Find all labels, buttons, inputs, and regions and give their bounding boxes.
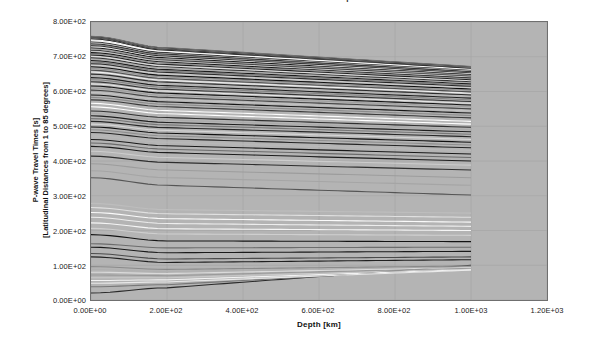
x-tick-label: 8.00E+02 (359, 306, 429, 316)
curve-group (91, 36, 471, 293)
travel-time-curve (91, 164, 471, 178)
plot-area (90, 21, 548, 301)
travel-time-curve (91, 235, 471, 242)
travel-time-curve (91, 223, 471, 231)
x-tick-label: 2.00E+02 (131, 306, 201, 316)
x-axis-title: Depth [km] (90, 320, 548, 329)
travel-time-curve (91, 253, 471, 259)
y-axis-title-line1: P-wave Travel Times [s] (31, 15, 41, 305)
travel-time-curve (91, 156, 471, 170)
x-tick-label: 6.00E+02 (283, 306, 353, 316)
travel-time-curve (91, 203, 471, 213)
travel-time-curve (91, 270, 471, 283)
x-tick-label: 1.00E+03 (436, 306, 506, 316)
x-tick-label: 4.00E+02 (207, 306, 277, 316)
x-tick-label: 1.20E+03 (512, 306, 582, 316)
travel-time-curve (91, 151, 471, 165)
travel-time-curve (91, 212, 471, 222)
chart-figure: P-wave Travel Times vs. Depth 8.00E+02 7… (0, 0, 601, 351)
travel-time-curve (91, 244, 471, 248)
y-axis-title-line2: [Latitudinal Distances from 1 to 85 degr… (41, 15, 51, 305)
travel-time-curves (91, 22, 547, 300)
chart-title: P-wave Travel Times vs. Depth (0, 0, 601, 2)
y-axis-title: P-wave Travel Times [s] [Latitudinal Dis… (31, 15, 51, 305)
x-tick-label: 0.00E+00 (55, 306, 125, 316)
